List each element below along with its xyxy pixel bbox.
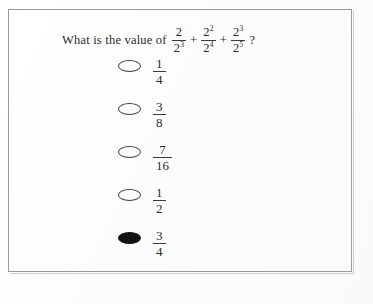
answer-option-2[interactable]: 3 8 xyxy=(118,100,172,143)
answer-1-denominator: 4 xyxy=(153,71,166,86)
answer-choice-4: 1 2 xyxy=(153,186,166,215)
answer-5-numerator: 3 xyxy=(153,229,166,243)
answer-option-4[interactable]: 1 2 xyxy=(118,186,172,229)
term-1-numerator: 2 xyxy=(174,26,184,40)
answer-option-5[interactable]: 3 4 xyxy=(118,229,172,272)
question-stem: What is the value of 2 23 + 22 24 + 23 2… xyxy=(62,26,255,54)
term-1-denominator: 23 xyxy=(172,40,186,55)
answer-1-numerator: 1 xyxy=(153,57,166,71)
answer-choice-5: 3 4 xyxy=(153,229,166,258)
term-2-denominator: 24 xyxy=(201,40,215,55)
answer-bubble-5[interactable] xyxy=(118,232,141,244)
scanned-question-page: What is the value of 2 23 + 22 24 + 23 2… xyxy=(0,0,373,304)
answer-3-numerator: 7 xyxy=(156,143,169,157)
answer-choice-3: 7 16 xyxy=(153,143,172,172)
answer-choice-2: 3 8 xyxy=(153,100,166,129)
question-text: What is the value of xyxy=(62,33,167,48)
operator-1: + xyxy=(190,33,197,48)
question-term-1: 2 23 xyxy=(172,26,186,54)
answer-choice-1: 1 4 xyxy=(153,57,166,86)
answer-2-denominator: 8 xyxy=(153,114,166,129)
answer-option-3[interactable]: 7 16 xyxy=(118,143,172,186)
answer-options-list: 1 4 3 8 7 16 1 2 xyxy=(118,57,172,272)
question-term-2: 22 24 xyxy=(201,26,215,54)
answer-bubble-3[interactable] xyxy=(118,146,141,158)
answer-bubble-4[interactable] xyxy=(118,189,141,201)
answer-2-numerator: 3 xyxy=(153,100,166,114)
answer-option-1[interactable]: 1 4 xyxy=(118,57,172,100)
term-3-denominator: 25 xyxy=(231,40,245,55)
operator-2: + xyxy=(220,33,227,48)
answer-bubble-2[interactable] xyxy=(118,103,141,115)
question-term-3: 23 25 xyxy=(231,26,245,54)
term-2-numerator: 22 xyxy=(201,26,215,40)
answer-4-denominator: 2 xyxy=(153,200,166,215)
answer-4-numerator: 1 xyxy=(153,186,166,200)
answer-5-denominator: 4 xyxy=(153,243,166,258)
answer-3-denominator: 16 xyxy=(153,157,172,172)
term-3-numerator: 23 xyxy=(231,26,245,40)
answer-bubble-1[interactable] xyxy=(118,60,141,72)
question-mark: ? xyxy=(249,33,255,48)
